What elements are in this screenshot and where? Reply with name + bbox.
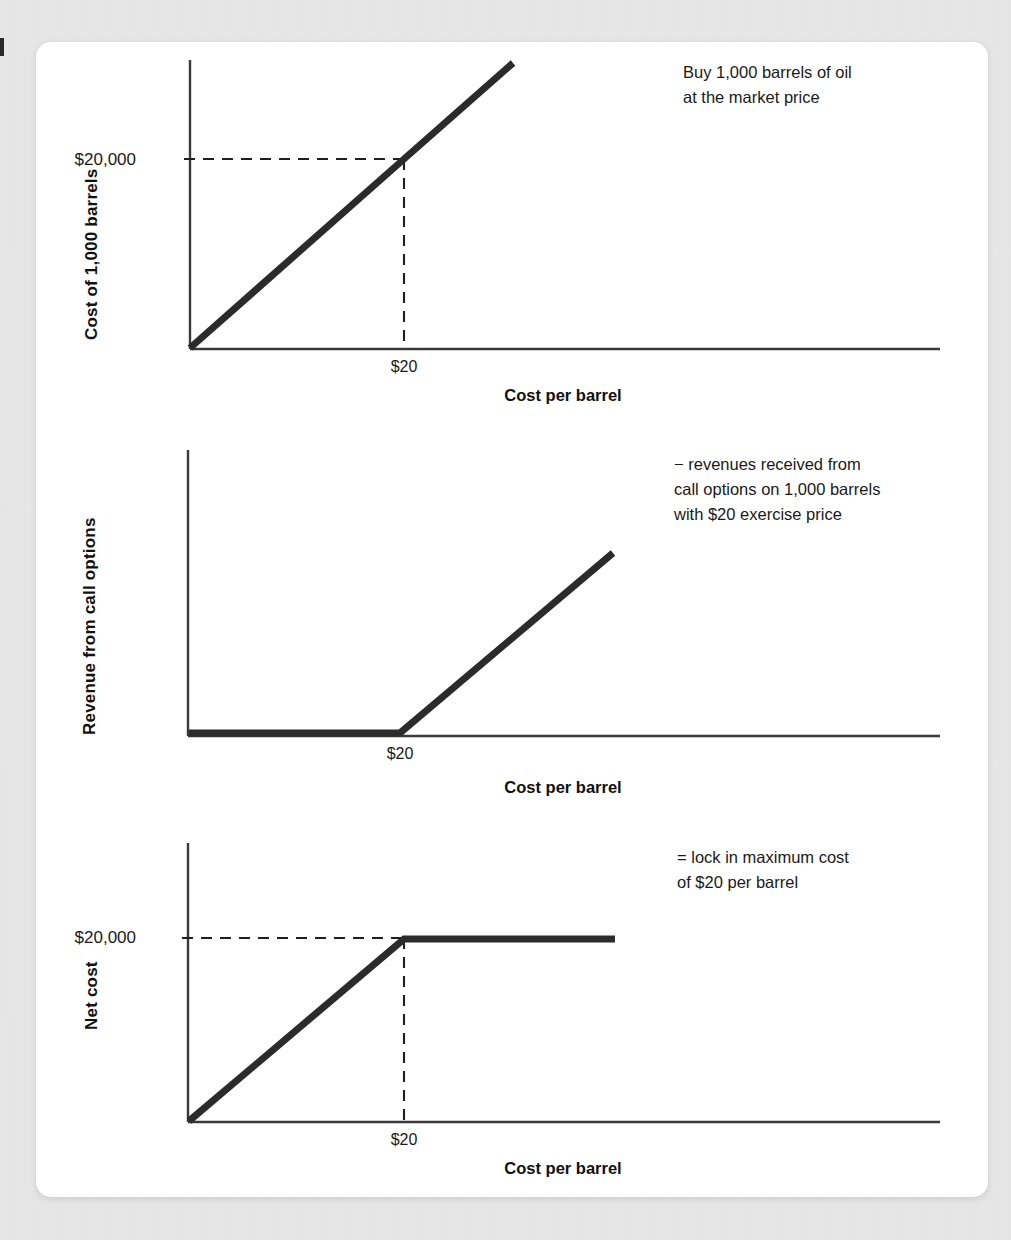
panel3-y-axis-title: Net cost — [82, 961, 102, 1030]
panel2-x-axis-title: Cost per barrel — [443, 778, 683, 797]
panel3-y-tick-label: $20,000 — [36, 928, 136, 948]
panel2-y-axis-title: Revenue from call options — [80, 517, 100, 735]
figure-page: Cost of 1,000 barrels $20,000 $20 Cost p… — [0, 0, 1011, 1240]
panel1-x-axis-title: Cost per barrel — [443, 386, 683, 405]
panel1-annotation: Buy 1,000 barrels of oil at the market p… — [683, 60, 973, 110]
panel3-x-axis-title: Cost per barrel — [443, 1159, 683, 1178]
panel3-x-tick-label: $20 — [344, 1131, 464, 1149]
panel1-x-tick-label: $20 — [344, 358, 464, 376]
figure-card — [36, 42, 988, 1197]
panel2-x-tick-label: $20 — [340, 745, 460, 763]
panel2-annotation: − revenues received from call options on… — [674, 452, 984, 527]
panel1-y-tick-label: $20,000 — [36, 150, 136, 170]
panel3-annotation: = lock in maximum cost of $20 per barrel — [677, 845, 977, 895]
page-edge-artifact — [0, 38, 4, 56]
panel1-y-axis-title: Cost of 1,000 barrels — [82, 169, 102, 340]
